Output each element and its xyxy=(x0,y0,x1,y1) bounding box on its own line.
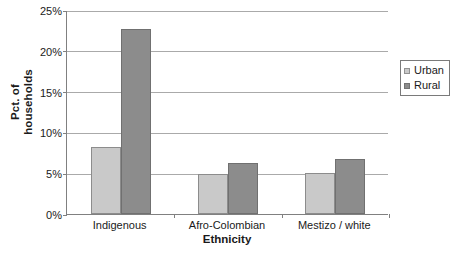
x-axis-tick-mark xyxy=(282,214,283,218)
legend-label: Rural xyxy=(414,79,440,92)
bar-group xyxy=(67,11,174,214)
x-axis-title: Ethnicity xyxy=(66,233,388,246)
y-axis-tick-label: 5% xyxy=(28,169,62,180)
y-axis-tick-label: 0% xyxy=(28,210,62,221)
x-axis-tick-mark xyxy=(389,214,390,218)
legend-label: Urban xyxy=(414,64,444,77)
x-axis-category-label: Afro-Colombian xyxy=(189,219,265,232)
plot-area xyxy=(66,11,388,215)
x-axis-category-label: Mestizo / white xyxy=(298,219,371,232)
y-axis-tick-mark xyxy=(63,215,67,216)
rural-swatch-icon xyxy=(404,83,410,89)
legend-entry-rural[interactable]: Rural xyxy=(404,79,444,92)
y-axis-tick-label: 10% xyxy=(28,128,62,139)
y-axis-tick-label: 25% xyxy=(28,6,62,17)
urban-swatch-icon xyxy=(404,68,410,74)
x-axis-tick-mark xyxy=(174,214,175,218)
x-axis-category-label: Indigenous xyxy=(93,219,147,232)
y-axis-tick-label: 15% xyxy=(28,87,62,98)
bar-group xyxy=(282,11,389,214)
bar-group xyxy=(174,11,281,214)
bar-urban-1 xyxy=(198,174,228,214)
bar-rural-0 xyxy=(121,29,151,214)
y-axis-tick-label: 20% xyxy=(28,46,62,57)
y-axis-tick-labels: 0%5%10%15%20%25% xyxy=(26,0,62,253)
chart-legend: UrbanRural xyxy=(400,60,450,96)
bar-chart-figure: Pct. of households 0%5%10%15%20%25% Indi… xyxy=(0,0,456,253)
bar-urban-2 xyxy=(305,173,335,214)
legend-entry-urban[interactable]: Urban xyxy=(404,64,444,77)
bar-rural-1 xyxy=(228,163,258,214)
y-axis-title-line-1: Pct. of xyxy=(9,84,22,120)
bar-urban-0 xyxy=(91,147,121,214)
bar-rural-2 xyxy=(335,159,365,214)
